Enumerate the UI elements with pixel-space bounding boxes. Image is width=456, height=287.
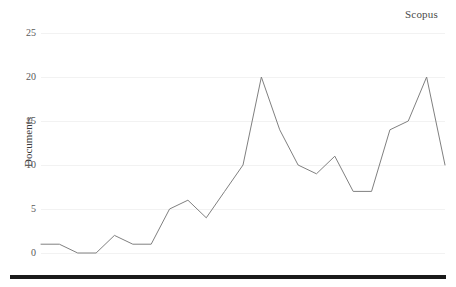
chart-figure: Scopus Documents 0510152025 199419961998… xyxy=(0,0,456,287)
data-series-scopus xyxy=(41,33,445,253)
series-line-scopus xyxy=(41,77,445,253)
y-axis-title: Documents xyxy=(22,97,34,187)
chart-title: Scopus xyxy=(405,8,438,20)
y-tick-label-20: 20 xyxy=(26,72,36,82)
y-tick-label-25: 25 xyxy=(26,28,36,38)
y-tick-label-0: 0 xyxy=(31,248,36,258)
gridline-y-0 xyxy=(41,253,445,254)
plot-area: 0510152025 19941996199820002002200420062… xyxy=(41,33,445,253)
y-tick-label-15: 15 xyxy=(26,116,36,126)
y-tick-label-10: 10 xyxy=(26,160,36,170)
bottom-divider-rule xyxy=(10,275,446,279)
y-tick-label-5: 5 xyxy=(31,204,36,214)
